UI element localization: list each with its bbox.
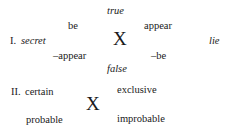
- square-1-upper-right: appear: [144, 20, 172, 32]
- square-1-upper-left: be: [68, 20, 78, 32]
- square-2-cross: X: [86, 94, 100, 113]
- square-2-label: II.: [11, 86, 21, 98]
- square-1-left-term: secret: [21, 35, 46, 47]
- square-1-bottom-term: false: [107, 63, 127, 75]
- square-2-upper-left: certain: [25, 86, 54, 98]
- square-1-lower-left: –appear: [53, 50, 86, 62]
- square-2-lower-right: improbable: [117, 113, 165, 125]
- square-2-upper-right: exclusive: [117, 84, 157, 96]
- square-1-right-term: lie: [209, 35, 220, 47]
- square-2-lower-left: probable: [26, 114, 63, 126]
- square-1-cross: X: [113, 29, 127, 48]
- square-1-label: I.: [10, 35, 16, 47]
- square-1-top-term: true: [107, 5, 124, 17]
- square-1-lower-right: –be: [151, 50, 166, 62]
